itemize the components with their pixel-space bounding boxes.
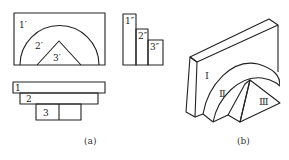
top-view-label-2: 2 [26, 94, 32, 104]
top-view: 1 2 3 [13, 82, 105, 120]
front-view-label-1: 1′ [19, 20, 27, 30]
prism-left-face [228, 80, 250, 122]
side-view: 1″ 2″ 3″ [123, 14, 163, 65]
isometric-view: Ⅰ Ⅱ Ⅲ [186, 19, 280, 122]
side-view-label-3: 3″ [150, 42, 160, 52]
three-view-diagram: 1′ 2′ 3′ 1″ 2″ 3″ 1 2 3 (a) [0, 0, 289, 160]
halfcylinder-front-arc [213, 78, 279, 122]
top-view-label-1: 1 [15, 83, 21, 93]
front-view-label-3: 3′ [53, 53, 61, 63]
isometric-prism-part3 [228, 80, 280, 122]
isometric-label-3: Ⅲ [259, 96, 269, 107]
front-view-label-2: 2′ [35, 41, 43, 51]
top-view-part1 [13, 82, 105, 93]
front-view: 1′ 2′ 3′ [14, 13, 105, 65]
isometric-label-2: Ⅱ [219, 88, 226, 99]
halfcylinder-base-edge [213, 115, 228, 122]
isometric-label-1: Ⅰ [205, 70, 209, 81]
slab-end-face [186, 57, 197, 117]
slab-bottom-edge [195, 114, 203, 117]
side-view-label-2: 2″ [138, 31, 148, 41]
caption-b: (b) [237, 136, 250, 146]
slab-top-face [190, 19, 278, 62]
top-view-label-3: 3 [43, 108, 49, 118]
halfcylinder-bottom-edge [203, 114, 213, 122]
side-view-label-1: 1″ [125, 16, 135, 26]
isometric-halfcylinder-part2 [203, 63, 280, 122]
caption-a: (a) [84, 136, 96, 146]
